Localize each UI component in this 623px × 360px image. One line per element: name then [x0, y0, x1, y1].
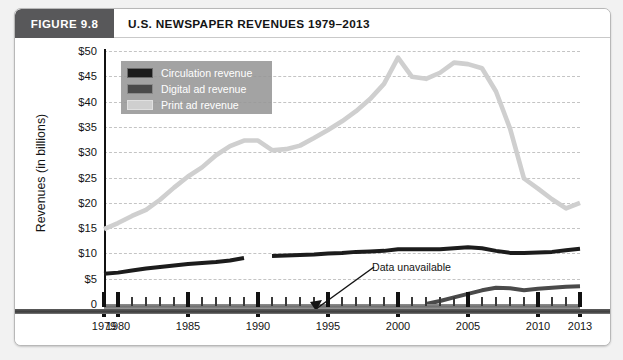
x-axis-major-tick — [578, 292, 581, 307]
x-axis-minor-tick — [439, 297, 440, 306]
chart-area: Revenues (in billions) $50$45$40$35$30$2… — [15, 38, 611, 346]
x-axis-tick-label: 2013 — [568, 320, 592, 332]
y-axis-tick-label: $5 — [85, 273, 97, 285]
x-axis-minor-tick — [285, 297, 286, 306]
x-axis-major-tick — [256, 292, 259, 307]
x-axis-tick-label: 2000 — [386, 320, 410, 332]
x-axis-minor-tick — [565, 297, 566, 306]
series-line — [104, 258, 244, 274]
x-axis-major-tick — [536, 292, 539, 307]
x-axis-minor-tick — [481, 297, 482, 306]
y-axis-tick-label: $50 — [78, 45, 97, 57]
figure-number-label: FIGURE 9.8 — [31, 18, 99, 30]
plot-region: $50$45$40$35$30$25$20$15$10$50 197919801… — [104, 51, 580, 304]
legend-item: Circulation revenue — [127, 65, 266, 80]
x-axis-major-tick — [186, 292, 189, 307]
x-axis-minor-tick — [509, 297, 510, 306]
page-title: U.S. NEWSPAPER REVENUES 1979–2013 — [128, 9, 370, 38]
x-axis-major-tick — [466, 292, 469, 307]
figure-bottom-rule — [15, 309, 611, 314]
x-axis-major-tick — [102, 292, 105, 307]
x-axis-minor-tick — [173, 297, 174, 306]
x-axis-minor-tick — [551, 297, 552, 306]
x-axis-tick-label: 1985 — [176, 320, 200, 332]
x-axis-major-tick — [396, 292, 399, 307]
x-axis-minor-tick — [243, 297, 244, 306]
series-line — [426, 286, 580, 304]
x-axis-minor-tick — [229, 297, 230, 306]
legend-label: Print ad revenue — [161, 99, 239, 111]
x-axis-minor-tick — [271, 297, 272, 306]
y-axis-tick-label: $30 — [78, 146, 97, 158]
x-axis-minor-tick — [131, 297, 132, 306]
x-axis-tick-label: 1980 — [106, 320, 130, 332]
legend-swatch — [127, 68, 153, 78]
x-axis-minor-tick — [523, 297, 524, 306]
y-axis-tick-label: $45 — [78, 70, 97, 82]
legend-item: Print ad revenue — [127, 97, 266, 112]
figure-background: FIGURE 9.8 U.S. NEWSPAPER REVENUES 1979–… — [0, 0, 623, 360]
x-axis-major-tick — [116, 292, 119, 307]
x-axis-minor-tick — [495, 297, 496, 306]
x-axis-minor-tick — [201, 297, 202, 306]
x-axis-minor-tick — [215, 297, 216, 306]
figure-header: FIGURE 9.8 U.S. NEWSPAPER REVENUES 1979–… — [15, 9, 611, 38]
x-axis-tick-label: 1990 — [246, 320, 270, 332]
series-line — [272, 247, 580, 256]
y-axis-label: Revenues (in billions) — [34, 63, 48, 283]
x-axis-tick-label: 2005 — [456, 320, 480, 332]
x-axis-tick-label: 2010 — [526, 320, 550, 332]
legend-label: Circulation revenue — [161, 67, 252, 79]
x-axis-minor-tick — [425, 297, 426, 306]
legend-swatch — [127, 84, 153, 94]
annotation-label: Data unavailable — [372, 261, 451, 273]
x-axis-minor-tick — [145, 297, 146, 306]
y-axis-tick-label: $35 — [78, 121, 97, 133]
legend-item: Digital ad revenue — [127, 81, 266, 96]
figure-number-tab: FIGURE 9.8 — [15, 9, 114, 38]
x-axis-minor-tick — [453, 297, 454, 306]
y-axis-tick-label: $15 — [78, 222, 97, 234]
legend: Circulation revenueDigital ad revenuePri… — [121, 61, 272, 114]
y-axis-tick-label: $20 — [78, 197, 97, 209]
x-axis-minor-tick — [411, 297, 412, 306]
y-axis-tick-label: $40 — [78, 96, 97, 108]
x-axis-minor-tick — [383, 297, 384, 306]
x-axis-tick-label: 1995 — [316, 320, 340, 332]
figure-card: FIGURE 9.8 U.S. NEWSPAPER REVENUES 1979–… — [14, 8, 611, 346]
y-axis-tick-label: $10 — [78, 247, 97, 259]
legend-swatch — [127, 100, 153, 110]
y-axis-tick-label: $25 — [78, 172, 97, 184]
legend-label: Digital ad revenue — [161, 83, 246, 95]
x-axis-minor-tick — [159, 297, 160, 306]
